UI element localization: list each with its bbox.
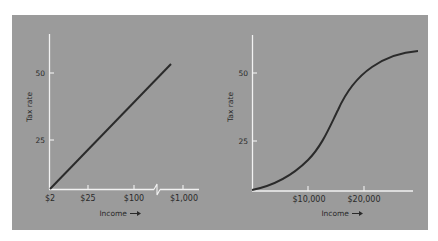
- left-arrow-icon: [130, 211, 141, 216]
- left-x-label-2: $2: [45, 194, 55, 203]
- right-y-label-25: 25: [238, 137, 248, 146]
- left-chart: 50 25 Tax rate $2 $25 $100 $1,000 Income: [25, 34, 199, 218]
- right-chart: 50 25 Tax rate $10,000 $20,000 Income: [226, 35, 418, 218]
- left-x-label-1000: $1,000: [170, 194, 198, 203]
- left-x-label-100: $100: [124, 194, 144, 203]
- right-y-axis-title: Tax rate: [226, 92, 235, 123]
- left-y-label-50: 50: [35, 69, 45, 78]
- right-y-label-50: 50: [238, 69, 248, 78]
- left-y-label-25: 25: [35, 136, 45, 145]
- left-axis-break-icon: [154, 184, 160, 195]
- left-x-axis-title: Income: [99, 209, 127, 218]
- right-arrow-icon: [352, 211, 363, 216]
- right-x-axis-title: Income: [321, 209, 349, 218]
- charts-svg: 50 25 Tax rate $2 $25 $100 $1,000 Income…: [0, 0, 438, 241]
- right-x-label-20000: $20,000: [347, 195, 380, 204]
- right-x-label-10000: $10,000: [292, 195, 325, 204]
- left-y-axis-title: Tax rate: [25, 92, 34, 123]
- right-data-curve: [252, 51, 418, 190]
- left-data-line: [50, 64, 171, 189]
- left-x-label-25: $25: [80, 194, 95, 203]
